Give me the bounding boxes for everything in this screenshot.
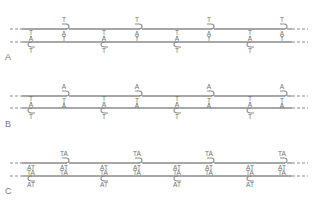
base-label-below-bottom-hook: AT	[246, 181, 254, 188]
base-pair-label: A	[29, 101, 34, 108]
top-hook-loop	[207, 24, 214, 29]
base-pair-label: A	[175, 35, 180, 42]
top-hook-loop	[135, 158, 142, 163]
base-label-above-top-hook: T	[280, 16, 284, 23]
base-pair-label: TA	[60, 169, 68, 176]
base-pair-label: T	[62, 35, 66, 42]
base-label-below-bottom-hook: T	[248, 113, 252, 120]
base-pair-label: TA	[100, 169, 108, 176]
top-hook-loop	[62, 24, 69, 29]
base-label-above-top-hook: T	[207, 16, 211, 23]
base-label-above-top-hook: A	[207, 83, 212, 90]
base-label-above-top-hook: TA	[133, 150, 141, 157]
base-pair-label: TA	[133, 169, 141, 176]
base-label-below-bottom-hook: T	[29, 47, 33, 54]
base-label-below-bottom-hook: T	[175, 113, 179, 120]
top-hook-loop	[280, 158, 287, 163]
top-hook-loop	[280, 24, 287, 29]
base-pair-label: T	[207, 35, 211, 42]
base-pair-label: A	[102, 35, 107, 42]
base-pair-label: A	[29, 35, 34, 42]
panel-c: TAATTAATTAATTAATATTAATATTAATATTAATATTAAT…	[10, 150, 308, 188]
top-hook-loop	[207, 91, 214, 96]
base-label-below-bottom-hook: T	[175, 47, 179, 54]
base-pair-label: A	[207, 102, 212, 109]
panel-label-c: C	[5, 186, 12, 196]
base-pair-label: TA	[246, 169, 254, 176]
base-label-below-bottom-hook: AT	[100, 181, 108, 188]
base-label-below-bottom-hook: T	[102, 113, 106, 120]
base-pair-label: A	[62, 102, 67, 109]
panel-b: ATAATAATAATATATTATTATTAT	[10, 83, 308, 120]
panel-label-a: A	[5, 52, 11, 62]
dna-strand-diagram: TATTATTATTATTATTATTATTATATAATAATAATATATT…	[0, 0, 321, 210]
base-pair-label: A	[280, 102, 285, 109]
base-label-above-top-hook: T	[62, 16, 66, 23]
base-label-above-top-hook: TA	[278, 150, 286, 157]
base-label-above-top-hook: A	[135, 83, 140, 90]
top-hook-loop	[135, 24, 142, 29]
base-label-below-bottom-hook: AT	[27, 181, 35, 188]
base-pair-label: A	[175, 101, 180, 108]
base-pair-label: A	[135, 102, 140, 109]
top-hook-loop	[135, 91, 142, 96]
base-pair-label: T	[280, 35, 284, 42]
base-pair-label: A	[248, 35, 253, 42]
base-label-below-bottom-hook: AT	[173, 181, 181, 188]
base-pair-label: T	[135, 35, 139, 42]
top-hook-loop	[62, 158, 69, 163]
base-label-above-top-hook: TA	[60, 150, 68, 157]
base-pair-label: A	[248, 101, 253, 108]
base-label-below-bottom-hook: T	[248, 47, 252, 54]
base-pair-label: TA	[173, 169, 181, 176]
base-label-above-top-hook: TA	[205, 150, 213, 157]
panel-label-b: B	[5, 119, 11, 129]
base-pair-label: TA	[278, 169, 286, 176]
base-label-above-top-hook: A	[280, 83, 285, 90]
base-pair-label: A	[102, 101, 107, 108]
panel-a: TATTATTATTATTATTATTATTAT	[10, 16, 308, 54]
base-pair-label: TA	[205, 169, 213, 176]
base-label-below-bottom-hook: T	[29, 113, 33, 120]
top-hook-loop	[280, 91, 287, 96]
base-label-below-bottom-hook: T	[102, 47, 106, 54]
base-label-above-top-hook: A	[62, 83, 67, 90]
base-pair-label: TA	[27, 169, 35, 176]
top-hook-loop	[207, 158, 214, 163]
base-label-above-top-hook: T	[135, 16, 139, 23]
top-hook-loop	[62, 91, 69, 96]
